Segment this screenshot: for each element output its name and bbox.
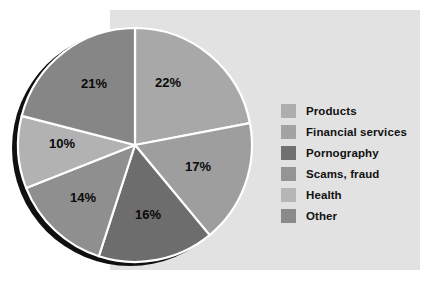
pie-slice-label: 16%: [135, 207, 161, 222]
pie-slice-label: 17%: [185, 159, 211, 174]
pie-chart-svg: 22%17%16%14%10%21%: [0, 0, 290, 287]
legend-item[interactable]: Scams, fraud: [281, 163, 426, 184]
pie-slice-label: 22%: [155, 75, 181, 90]
legend-item[interactable]: Pornography: [281, 142, 426, 163]
legend-item-label: Health: [306, 189, 342, 201]
pie-slice-label: 14%: [70, 190, 96, 205]
chart-figure: 22%17%16%14%10%21% ProductsFinancial ser…: [0, 0, 438, 287]
legend-item[interactable]: Products: [281, 100, 426, 121]
legend-swatch: [281, 125, 296, 139]
legend-swatch: [281, 104, 296, 118]
legend-swatch: [281, 188, 296, 202]
legend-item-label: Financial services: [306, 126, 407, 138]
legend-swatch: [281, 146, 296, 160]
legend-swatch: [281, 209, 296, 223]
legend-item-label: Other: [306, 210, 337, 222]
pie-chart: 22%17%16%14%10%21%: [0, 0, 290, 287]
legend-item[interactable]: Financial services: [281, 121, 426, 142]
legend-swatch: [281, 167, 296, 181]
legend-item[interactable]: Health: [281, 184, 426, 205]
pie-slice-label: 10%: [49, 136, 75, 151]
pie-slice-label: 21%: [81, 76, 107, 91]
legend: ProductsFinancial servicesPornographySca…: [281, 100, 426, 226]
legend-item-label: Products: [306, 105, 357, 117]
legend-item-label: Pornography: [306, 147, 379, 159]
legend-item[interactable]: Other: [281, 205, 426, 226]
legend-item-label: Scams, fraud: [306, 168, 379, 180]
